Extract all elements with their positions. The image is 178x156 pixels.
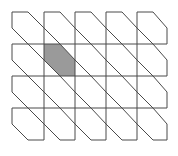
grid-cell: [12, 108, 44, 140]
grid-cell: [12, 44, 44, 76]
grid-cell: [75, 12, 106, 44]
grid-cell: [44, 108, 75, 140]
grid-cell: [137, 76, 167, 108]
tiling-diagram: [0, 0, 178, 156]
grid-cell: [106, 76, 137, 108]
highlighted-cell: [44, 44, 75, 76]
grid-cell: [106, 108, 137, 140]
grid-cell: [44, 76, 75, 108]
grid-cell: [137, 108, 167, 140]
grid-cell: [75, 76, 106, 108]
grid-cell: [137, 12, 167, 44]
grid-cell: [12, 12, 44, 44]
grid-cell: [106, 12, 137, 44]
grid-cell: [44, 12, 75, 44]
grid-svg: [0, 0, 178, 156]
grid-cell: [12, 76, 44, 108]
grid-cell: [137, 44, 167, 76]
grid-cell: [75, 44, 106, 76]
grid-cell: [75, 108, 106, 140]
grid-cell: [106, 44, 137, 76]
